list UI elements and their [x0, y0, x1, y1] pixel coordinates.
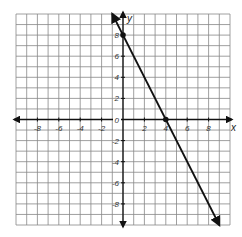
data-point	[120, 32, 126, 38]
x-tick-label: -8	[34, 124, 42, 133]
x-tick-label: 8	[206, 124, 211, 133]
x-tick-label: -2	[98, 124, 106, 133]
x-tick-label: -4	[77, 124, 85, 133]
y-axis-label: y	[126, 13, 133, 24]
y-tick-label: 8	[115, 31, 120, 40]
coordinate-graph: -8-6-4-224688642-2-4-6-80 x y	[0, 0, 242, 237]
y-tick-label: 4	[115, 73, 120, 82]
y-tick-label: -6	[112, 179, 120, 188]
y-tick-label: -2	[112, 137, 120, 146]
origin-label: 0	[115, 116, 120, 125]
data-point	[163, 117, 169, 123]
y-tick-label: 6	[115, 52, 120, 61]
x-axis-label: x	[230, 122, 237, 133]
x-tick-label: 6	[185, 124, 190, 133]
y-tick-label: -8	[112, 200, 120, 209]
y-tick-label: -4	[112, 158, 120, 167]
y-tick-label: 2	[114, 94, 120, 103]
x-tick-label: -6	[55, 124, 63, 133]
axes	[14, 12, 232, 227]
x-tick-label: 2	[141, 124, 147, 133]
